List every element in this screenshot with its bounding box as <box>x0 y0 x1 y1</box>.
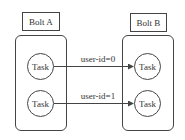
bolt-a-task-1: Task <box>27 90 54 117</box>
bolt-b-task-1: Task <box>134 90 161 117</box>
task-label: Task <box>139 62 156 72</box>
bolt-b-task-0: Task <box>134 53 161 80</box>
task-label: Task <box>32 99 49 109</box>
bolt-a-task-0: Task <box>27 53 54 80</box>
task-label: Task <box>139 99 156 109</box>
task-label: Task <box>32 62 49 72</box>
edge-label-0: user-id=0 <box>70 54 126 64</box>
edge-label-1: user-id=1 <box>70 91 126 101</box>
